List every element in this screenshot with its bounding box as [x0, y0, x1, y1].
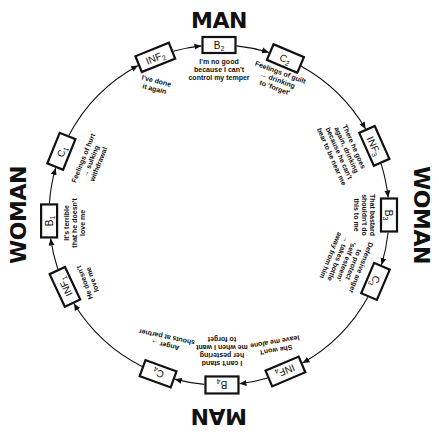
node-b2: B2I'm no goodbecause I can'tcontrol my t…	[188, 37, 249, 82]
node-b3: B3That bastardshouldn't dothis to me	[353, 194, 397, 236]
arrow-B1-to-C1	[49, 168, 55, 203]
caption-line: It's terrible	[63, 205, 70, 241]
caption-c4: Anger →shouts at partner	[136, 327, 196, 355]
caption-inf4: She won'tleave me alone	[250, 334, 302, 358]
caption-inf3: There he goesagain, drinkingbecause he c…	[316, 117, 370, 187]
node-c3: C3Defensive angerto protect'self esteem'…	[316, 229, 389, 300]
caption-b2: I'm no goodbecause I can'tcontrol my tem…	[188, 58, 249, 82]
caption-line: this to me	[353, 198, 360, 231]
party-label-top: MAN	[191, 8, 247, 33]
node-c2: C2Feelings of guilt→ drinkingto 'forget'	[248, 44, 307, 101]
node-c1: C1Feelings of hurt→ sulkingwithdrawal	[47, 132, 111, 190]
caption-line: That bastard	[369, 194, 376, 236]
party-label-right: WOMAN	[409, 166, 434, 264]
caption-line: that he doesn't	[71, 198, 78, 248]
arrow-C4-to-INF1	[74, 304, 142, 367]
caption-line: I can't stand	[202, 360, 243, 367]
node-b1: B1It's terriblethat he doesn'tlove me	[41, 198, 86, 248]
caption-b4: I can't standher pesteringme when I want…	[195, 335, 247, 368]
arrow-INF2-to-B2	[173, 46, 201, 51]
party-label-left: WOMAN	[6, 166, 31, 264]
caption-line: shouldn't do	[361, 194, 368, 236]
interaction-cycle-diagram: MANWOMANMANWOMAN INF2I've doneit againB2…	[0, 0, 439, 441]
caption-b1: It's terriblethat he doesn'tlove me	[63, 198, 86, 248]
arrow-INF3-to-B3	[381, 164, 388, 198]
caption-line: her pestering	[200, 351, 244, 359]
caption-line: to forget	[207, 335, 236, 343]
caption-b3: That bastardshouldn't dothis to me	[353, 194, 376, 236]
node-inf2: INF2I've doneit again	[135, 43, 175, 97]
arrow-B3-to-C3	[382, 233, 389, 265]
caption-inf2: I've doneit again	[139, 74, 172, 97]
caption-line: because I can't	[194, 66, 245, 73]
caption-c1: Feelings of hurt→ sulkingwithdrawal	[70, 132, 112, 190]
caption-line: me when I want	[195, 344, 247, 351]
arrow-C1-to-INF2	[69, 65, 138, 135]
node-inf4: INF4She won'tleave me alone	[250, 334, 306, 386]
cycle-arrows	[49, 46, 388, 384]
arrow-B2-to-C2	[237, 46, 269, 53]
arrow-B4-to-C4	[175, 379, 205, 384]
node-c4: C4Anger →shouts at partner	[136, 327, 196, 387]
caption-line: love me	[79, 210, 86, 236]
cycle-nodes: INF2I've doneit againB2I'm no goodbecaus…	[41, 37, 397, 393]
arrow-C2-to-INF3	[301, 66, 365, 129]
arrow-INF4-to-B4	[239, 378, 267, 384]
node-inf3: INF3There he goesagain, drinkingbecause …	[316, 117, 390, 187]
caption-line: I'm no good	[199, 58, 238, 66]
arrow-C3-to-INF4	[302, 297, 367, 363]
arrow-INF1-to-B1	[51, 238, 58, 269]
party-label-bottom: MAN	[191, 404, 247, 429]
caption-line: control my temper	[188, 74, 249, 82]
